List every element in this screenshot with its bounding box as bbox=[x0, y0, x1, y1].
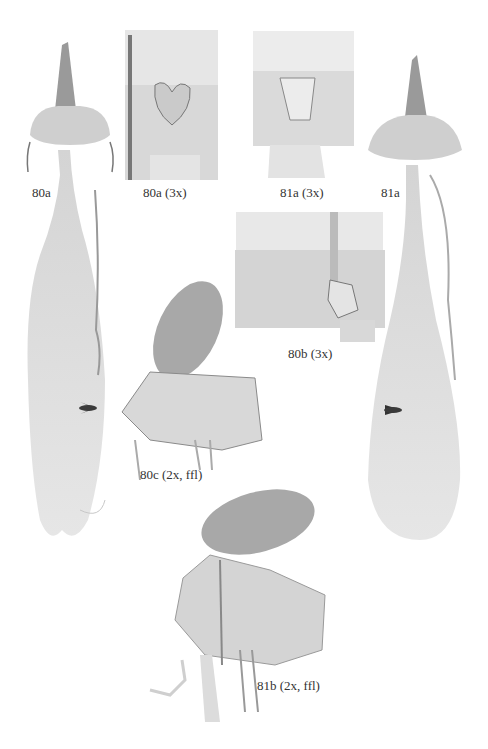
specimen-plate bbox=[0, 0, 488, 749]
figure-label-81a-3x: 81a (3x) bbox=[280, 185, 324, 201]
specimen-81a-3x bbox=[253, 31, 354, 178]
specimen-80b-3x bbox=[235, 212, 385, 342]
figure-label-81b: 81b (2x, ffl) bbox=[257, 678, 320, 694]
figure-label-80b-3x: 80b (3x) bbox=[288, 346, 332, 362]
figure-label-80a-3x: 80a (3x) bbox=[143, 185, 187, 201]
figure-label-80c: 80c (2x, ffl) bbox=[140, 467, 202, 483]
specimen-80a bbox=[27, 42, 113, 536]
figure-label-80a: 80a bbox=[32, 185, 51, 201]
specimen-80a-3x bbox=[125, 30, 218, 180]
figure-label-81a: 81a bbox=[381, 185, 400, 201]
